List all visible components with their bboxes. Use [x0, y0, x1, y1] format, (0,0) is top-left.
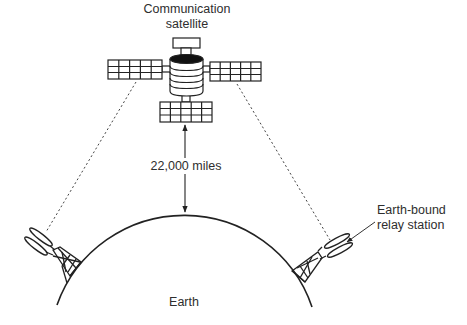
satellite-label-line1: Communication: [144, 2, 231, 17]
satellite-label-line2: satellite: [166, 17, 208, 32]
right-signal-line: [237, 84, 330, 240]
satellite-icon: [108, 38, 261, 122]
station-pointer-arrow: [347, 222, 375, 242]
station-label-line1: Earth-bound: [377, 203, 446, 218]
earth-arc: [57, 215, 312, 307]
satellite-antenna: [173, 38, 200, 48]
satellite-body: [170, 55, 203, 97]
right-solar-panel: [210, 62, 261, 81]
earth-label: Earth: [169, 295, 199, 310]
satellite-diagram: [0, 0, 467, 325]
left-signal-line: [46, 82, 136, 232]
right-relay-station-icon: [292, 232, 354, 282]
left-solar-panel: [108, 60, 162, 79]
station-label-line2: relay station: [377, 218, 444, 233]
distance-label: 22,000 miles: [151, 159, 222, 174]
bottom-solar-panel: [160, 102, 212, 122]
